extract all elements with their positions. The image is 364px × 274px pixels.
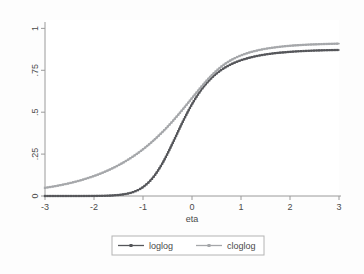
series-marker: [119, 194, 121, 196]
series-marker: [313, 49, 315, 51]
series-marker: [59, 195, 61, 197]
series-marker: [180, 123, 182, 125]
series-marker: [162, 160, 164, 162]
x-tick-label: -2: [90, 202, 98, 212]
series-marker: [52, 185, 54, 187]
series-marker: [122, 193, 124, 195]
x-axis-title: eta: [186, 214, 199, 224]
series-marker: [134, 154, 136, 156]
series-marker: [150, 141, 152, 143]
series-marker: [101, 195, 103, 197]
series-marker: [184, 106, 186, 108]
series-marker: [243, 53, 245, 55]
series-marker: [263, 48, 265, 50]
series-marker: [57, 185, 59, 187]
series-marker: [334, 49, 336, 51]
series-marker: [170, 144, 172, 146]
series-marker: [124, 193, 126, 195]
series-marker: [241, 59, 243, 61]
series-marker: [202, 84, 204, 86]
x-tick-label: 1: [238, 202, 243, 212]
series-marker: [164, 158, 166, 160]
series-marker: [179, 112, 181, 114]
series-marker: [65, 195, 67, 197]
series-marker: [183, 118, 185, 120]
series-marker: [315, 43, 317, 45]
series-marker: [299, 44, 301, 46]
series-marker: [52, 195, 54, 197]
series-marker: [77, 180, 79, 182]
series-marker: [238, 55, 240, 57]
series-marker: [187, 102, 189, 104]
series-marker: [328, 49, 330, 51]
series-marker: [310, 43, 312, 45]
series-marker: [85, 195, 87, 197]
series-marker: [325, 43, 327, 45]
legend-label-cloglog: cloglog: [227, 241, 256, 251]
series-marker: [305, 44, 307, 46]
series-marker: [188, 109, 190, 111]
series-marker: [118, 164, 120, 166]
series-marker: [261, 54, 263, 56]
series-marker: [180, 110, 182, 112]
series-marker: [80, 195, 82, 197]
series-marker: [308, 50, 310, 52]
series-marker: [295, 50, 297, 52]
series-marker: [294, 44, 296, 46]
chart-figure: 0.25.5.751 -3-2-10123 eta loglogcloglog: [0, 0, 364, 274]
series-marker: [72, 181, 74, 183]
series-marker: [276, 52, 278, 54]
series-marker: [190, 104, 192, 106]
series-marker: [258, 54, 260, 56]
series-marker: [49, 186, 51, 188]
series-marker: [166, 153, 168, 155]
series-marker: [315, 49, 317, 51]
series-marker: [234, 57, 236, 59]
series-marker: [127, 192, 129, 194]
series-marker: [102, 172, 104, 174]
series-marker: [195, 96, 197, 98]
series-marker: [195, 91, 197, 93]
legend-label-loglog: loglog: [149, 241, 173, 251]
series-marker: [83, 195, 85, 197]
series-marker: [173, 139, 175, 141]
series-marker: [182, 121, 184, 123]
chart-legend[interactable]: loglogcloglog: [112, 236, 264, 255]
y-tick-label: .75: [30, 64, 40, 77]
series-marker: [192, 96, 194, 98]
series-marker: [274, 46, 276, 48]
series-marker: [136, 153, 138, 155]
series-marker: [287, 51, 289, 53]
series-marker: [157, 169, 159, 171]
series-marker: [174, 118, 176, 120]
series-marker: [222, 64, 224, 66]
series-marker: [175, 116, 177, 118]
series-marker: [129, 157, 131, 159]
series-marker: [57, 195, 59, 197]
series-marker: [256, 55, 258, 57]
series-marker: [62, 183, 64, 185]
series-marker: [231, 63, 233, 65]
series-marker: [220, 65, 222, 67]
series-marker: [98, 195, 100, 197]
series-marker: [312, 43, 314, 45]
series-marker: [44, 187, 46, 189]
series-marker: [131, 156, 133, 158]
series-marker: [269, 53, 271, 55]
series-marker: [167, 151, 169, 153]
series-marker: [152, 176, 154, 178]
series-marker: [94, 174, 96, 176]
series-marker: [200, 85, 202, 87]
series-marker: [297, 50, 299, 52]
series-marker: [229, 64, 231, 66]
series-marker: [179, 125, 181, 127]
series-marker: [224, 66, 226, 68]
series-marker: [64, 183, 66, 185]
series-marker: [199, 87, 201, 89]
x-tick-label: -3: [41, 202, 49, 212]
series-marker: [111, 167, 113, 169]
series-marker: [307, 43, 309, 45]
series-marker: [305, 50, 307, 52]
x-tick-label: 2: [287, 202, 292, 212]
series-marker: [168, 149, 170, 151]
